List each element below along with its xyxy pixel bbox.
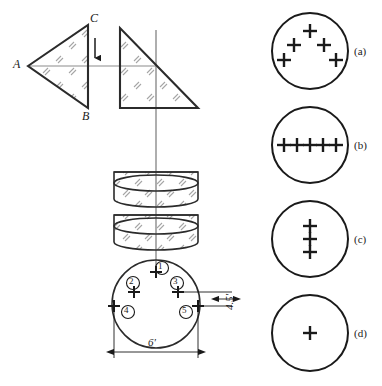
lens-upper [114, 172, 198, 207]
option-circle-b [272, 107, 348, 183]
vertex-label-c: C [90, 12, 98, 24]
aperture-marker-label-2: 2 [129, 277, 134, 286]
aperture-marker-label-4: 4 [124, 306, 129, 315]
option-label-b: (b) [354, 140, 367, 151]
aperture-crosses [108, 266, 204, 312]
option-label-d: (d) [354, 328, 367, 339]
aperture-marker-label-1: 1 [158, 262, 163, 271]
option-label-a: (a) [354, 46, 366, 57]
vertex-label-a: A [13, 58, 20, 70]
aperture-cross-2 [128, 286, 140, 298]
right-triangle [120, 28, 198, 108]
aperture-marker-label-3: 3 [173, 277, 178, 286]
dimension-label-height: 4.5' [224, 294, 235, 310]
figure-canvas [0, 0, 382, 386]
option-label-c: (c) [354, 234, 366, 245]
dimension-label-width: 6' [148, 337, 156, 348]
lens-lower [114, 215, 198, 250]
left-triangle [28, 25, 88, 108]
option-circle-c [272, 201, 348, 277]
option-circle-d [272, 295, 348, 371]
aperture-marker-label-5: 5 [182, 306, 187, 315]
vertex-label-b: B [82, 110, 89, 122]
option-circle-a [272, 13, 348, 89]
optics-figure: A C B 1 2 3 4 5 4.5' 6' (a) (b) (c) (d) [0, 0, 382, 386]
